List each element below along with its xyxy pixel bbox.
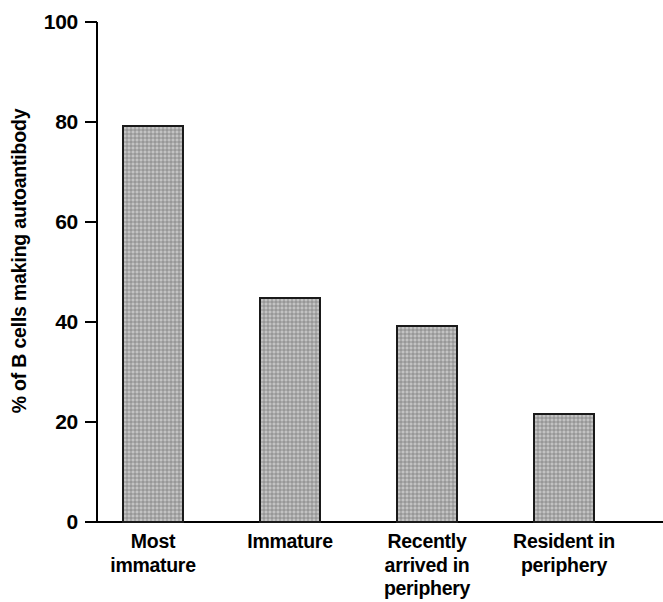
bar-series [0, 0, 663, 602]
x-axis-category-label-line: arrived in [352, 554, 502, 578]
bar [396, 325, 458, 524]
x-axis-category-label: Immature [215, 530, 365, 554]
bar [122, 125, 184, 524]
x-axis-category-label-line: periphery [489, 554, 639, 578]
x-axis-category-labels: MostimmatureImmatureRecentlyarrived inpe… [96, 530, 663, 602]
x-axis-category-label-line: periphery [352, 577, 502, 601]
x-axis-category-label-line: Most [78, 530, 228, 554]
x-axis-category-label-line: immature [78, 554, 228, 578]
x-axis-category-label: Mostimmature [78, 530, 228, 577]
x-axis-category-label: Resident inperiphery [489, 530, 639, 577]
x-axis-category-label: Recentlyarrived inperiphery [352, 530, 502, 601]
bar [533, 413, 595, 523]
x-axis-category-label-line: Immature [215, 530, 365, 554]
bar [259, 297, 321, 523]
x-axis-category-label-line: Resident in [489, 530, 639, 554]
bar-chart-figure: % of B cells making autoantibody 0204060… [0, 0, 663, 602]
x-axis-category-label-line: Recently [352, 530, 502, 554]
